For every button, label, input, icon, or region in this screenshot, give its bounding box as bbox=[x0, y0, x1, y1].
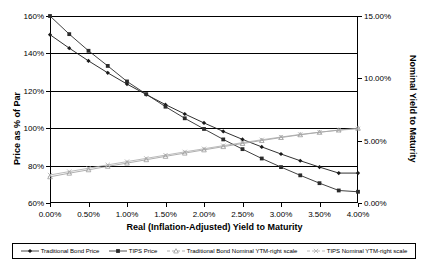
data-point-square bbox=[202, 127, 206, 131]
data-point-diamond bbox=[337, 171, 341, 175]
data-point-diamond bbox=[221, 129, 225, 133]
data-point-square bbox=[183, 116, 187, 120]
data-point-square bbox=[116, 249, 120, 253]
chart-legend: Traditional Bond PriceTIPS PriceTraditio… bbox=[12, 243, 416, 259]
data-point-square bbox=[298, 173, 302, 177]
legend-label: TIPS Nominal YTM-right scale bbox=[327, 248, 408, 254]
data-point-square bbox=[318, 181, 322, 185]
data-point-square bbox=[356, 190, 360, 194]
data-point-diamond bbox=[317, 165, 321, 169]
data-point-square bbox=[144, 92, 148, 96]
data-point-square bbox=[87, 49, 91, 53]
data-point-square bbox=[67, 32, 71, 36]
legend-marker-square-icon bbox=[109, 247, 127, 255]
data-point-square bbox=[337, 189, 341, 193]
legend-marker-diamond-icon bbox=[21, 247, 39, 255]
data-point-square bbox=[260, 157, 264, 161]
legend-marker-triangle-icon bbox=[167, 247, 185, 255]
chart-root: Price as % of Par Nominal Yield to Matur… bbox=[0, 0, 429, 268]
legend-label: TIPS Price bbox=[129, 248, 158, 254]
series-layer bbox=[0, 0, 429, 236]
series-0 bbox=[48, 33, 360, 176]
data-point-square bbox=[241, 147, 245, 151]
legend-marker-asterisk-icon bbox=[307, 247, 325, 255]
data-point-diamond bbox=[183, 112, 187, 116]
data-point-square bbox=[125, 80, 129, 84]
legend-label: Traditional Bond Price bbox=[41, 248, 100, 254]
data-point-diamond bbox=[106, 71, 110, 75]
series-2 bbox=[48, 126, 361, 179]
legend-item-3[interactable]: TIPS Nominal YTM-right scale bbox=[307, 247, 408, 255]
data-point-square bbox=[279, 165, 283, 169]
data-point-square bbox=[106, 64, 110, 68]
data-point-diamond bbox=[202, 121, 206, 125]
data-point-diamond bbox=[298, 159, 302, 163]
data-point-square bbox=[48, 14, 52, 18]
data-point-diamond bbox=[279, 152, 283, 156]
legend-item-2[interactable]: Traditional Bond Nominal YTM-right scale bbox=[167, 247, 298, 255]
legend-item-0[interactable]: Traditional Bond Price bbox=[21, 247, 100, 255]
data-point-square bbox=[164, 105, 168, 109]
data-point-diamond bbox=[260, 145, 264, 149]
chart-area: Price as % of Par Nominal Yield to Matur… bbox=[0, 0, 429, 236]
legend-label: Traditional Bond Nominal YTM-right scale bbox=[187, 248, 298, 254]
legend-item-1[interactable]: TIPS Price bbox=[109, 247, 158, 255]
data-point-diamond bbox=[356, 171, 360, 175]
data-point-square bbox=[221, 138, 225, 142]
data-point-diamond bbox=[28, 249, 32, 253]
